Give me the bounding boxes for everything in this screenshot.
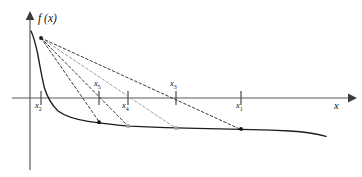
curve-marker-x4 (126, 124, 130, 128)
secant-line-to-x4 (41, 38, 129, 127)
fan-origin-marker (39, 36, 43, 40)
tick-label-x1-subscript: 1 (240, 106, 243, 112)
secant-lines-group (41, 38, 242, 130)
curve-marker-x1 (239, 127, 243, 131)
tick-label-x4: x4 (122, 101, 129, 112)
tick-label-x4-subscript: 4 (126, 106, 129, 112)
x-axis-group (12, 94, 357, 103)
curve-marker-x5 (97, 120, 101, 124)
tick-label-x2: x2 (35, 101, 42, 112)
tick-label-x5: x5 (94, 79, 101, 90)
figure-container: f (x) x x2 x5 x4 x3 x1 (0, 0, 362, 177)
tick-label-x1: x1 (236, 101, 243, 112)
tick-label-x2-subscript: 2 (39, 106, 42, 112)
curve-marker-x3 (174, 126, 178, 130)
function-curve (31, 31, 326, 136)
y-axis-arrowhead (26, 11, 35, 20)
x-axis-label: x (334, 101, 339, 112)
x-axis-arrowhead (348, 94, 357, 103)
tick-label-x3: x3 (170, 79, 177, 90)
tick-label-x3-subscript: 3 (174, 84, 177, 90)
secant-line-to-x1 (41, 38, 242, 130)
secant-line-to-x3 (41, 38, 177, 129)
tick-label-x5-subscript: 5 (98, 84, 101, 90)
secant-line-to-x5 (41, 38, 100, 123)
function-label: f (x) (38, 13, 57, 25)
iteration-diagram-canvas (0, 0, 362, 177)
